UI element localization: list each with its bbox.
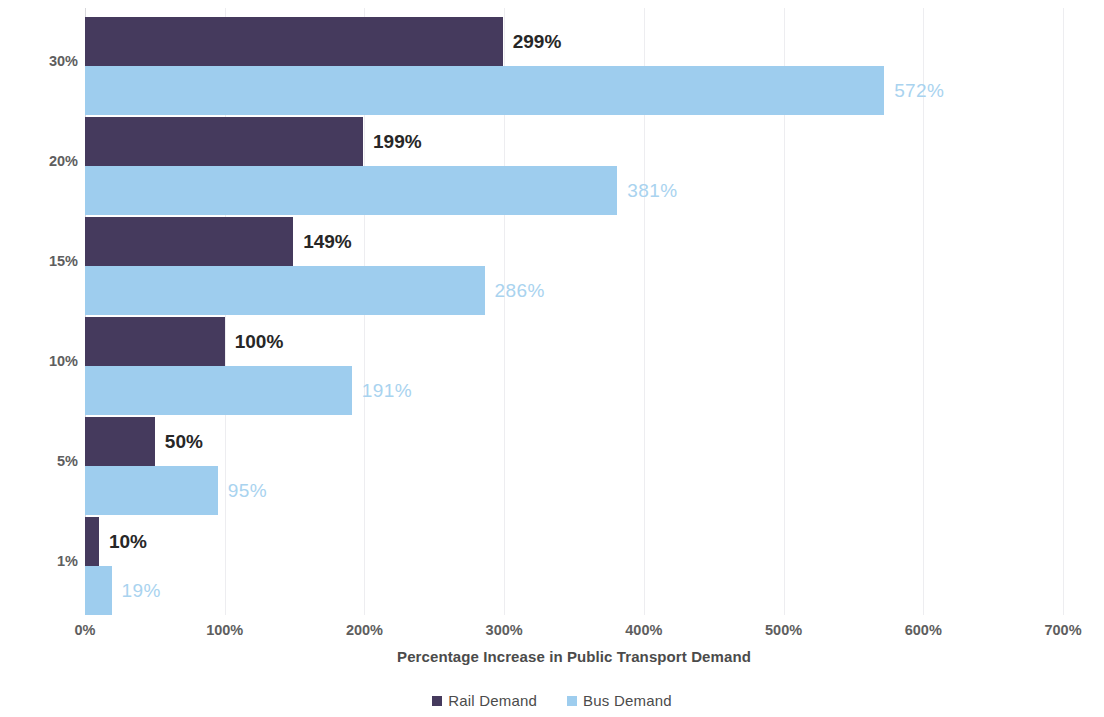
y-axis-tick-label: 1% — [16, 554, 78, 568]
x-axis-tick-labels: 0%100%200%300%400%500%600%700% — [85, 620, 1063, 642]
x-axis-tick-label: 0% — [45, 620, 125, 640]
bar-value-label-rail: 100% — [235, 332, 284, 351]
y-axis-tick-labels: 30%20%15%10%5%1% — [10, 8, 78, 615]
bar-group: 50%95% — [85, 411, 1063, 511]
bar-bus-demand — [85, 66, 884, 115]
x-axis-tick-label: 700% — [1023, 620, 1103, 640]
bar-value-label-bus: 286% — [495, 281, 545, 300]
legend-item[interactable]: Rail Demand — [432, 693, 537, 709]
bar-bus-demand — [85, 166, 617, 215]
x-axis-tick-label: 200% — [324, 620, 404, 640]
y-axis-tick-label: 15% — [16, 254, 78, 268]
bar-chart: Percetage of Car Demand Switched 30%20%1… — [0, 0, 1104, 717]
x-axis-tick-label: 500% — [744, 620, 824, 640]
bar-value-label-bus: 572% — [894, 81, 944, 100]
bar-value-label-bus: 381% — [627, 181, 677, 200]
legend-swatch-icon — [432, 696, 442, 706]
bar-value-label-bus: 95% — [228, 481, 267, 500]
y-axis-tick-label: 20% — [16, 154, 78, 168]
gridline — [1063, 8, 1064, 615]
bar-group: 199%381% — [85, 111, 1063, 211]
legend-label: Bus Demand — [583, 693, 672, 709]
bar-bus-demand — [85, 566, 112, 615]
legend-label: Rail Demand — [448, 693, 537, 709]
bar-rail-demand — [85, 517, 99, 566]
x-axis-tick-label: 600% — [883, 620, 963, 640]
bar-group: 149%286% — [85, 211, 1063, 311]
y-axis-tick-label: 10% — [16, 354, 78, 368]
y-axis-tick-label: 5% — [16, 454, 78, 468]
chart-legend: Rail DemandBus Demand — [0, 688, 1104, 714]
bar-value-label-rail: 299% — [513, 32, 562, 51]
bar-rail-demand — [85, 217, 293, 266]
bar-value-label-rail: 149% — [303, 232, 352, 251]
bar-rail-demand — [85, 317, 225, 366]
plot-area: 299%572%199%381%149%286%100%191%50%95%10… — [85, 8, 1063, 615]
bar-rail-demand — [85, 117, 363, 166]
x-axis-tick-label: 300% — [464, 620, 544, 640]
bar-bus-demand — [85, 366, 352, 415]
bar-value-label-bus: 19% — [122, 581, 161, 600]
x-axis-tick-label: 100% — [185, 620, 265, 640]
x-axis-tick-label: 400% — [604, 620, 684, 640]
bar-group: 10%19% — [85, 511, 1063, 611]
bar-bus-demand — [85, 266, 485, 315]
bar-value-label-bus: 191% — [362, 381, 412, 400]
y-axis-tick-label: 30% — [16, 54, 78, 68]
bar-value-label-rail: 50% — [165, 432, 203, 451]
bar-group: 100%191% — [85, 311, 1063, 411]
legend-swatch-icon — [567, 696, 577, 706]
bar-value-label-rail: 199% — [373, 132, 422, 151]
bar-group: 299%572% — [85, 11, 1063, 111]
legend-item[interactable]: Bus Demand — [567, 693, 672, 709]
bar-rail-demand — [85, 17, 503, 66]
bar-rail-demand — [85, 417, 155, 466]
x-axis-title: Percentage Increase in Public Transport … — [85, 648, 1063, 665]
bar-value-label-rail: 10% — [109, 532, 147, 551]
bar-bus-demand — [85, 466, 218, 515]
